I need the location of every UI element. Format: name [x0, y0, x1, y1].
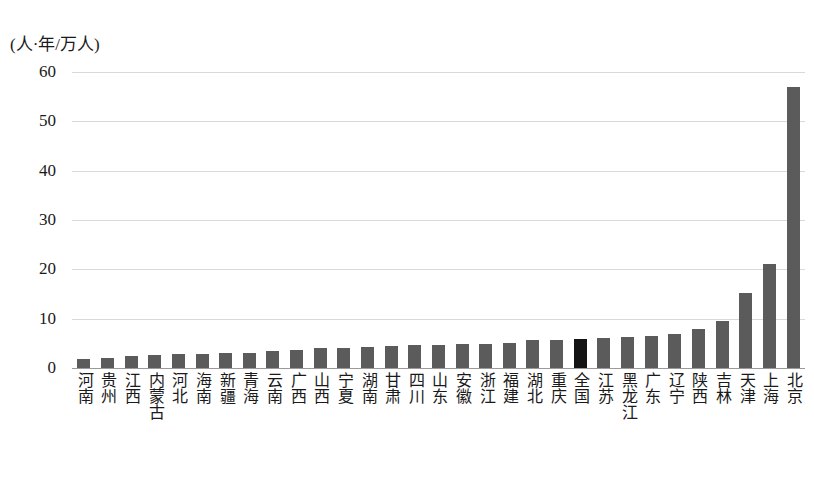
bar[interactable] [432, 345, 445, 368]
bar[interactable] [243, 353, 256, 368]
bar[interactable] [597, 338, 610, 368]
y-axis-tick-labels: 0102030405060 [0, 72, 64, 368]
x-label-slot: 甘肃 [379, 372, 403, 477]
bar-slot [332, 72, 356, 368]
bar-slot [663, 72, 687, 368]
x-tick-label: 黑龙江 [620, 372, 636, 420]
bar[interactable] [290, 350, 303, 368]
bar-slot [308, 72, 332, 368]
x-tick-label: 福建 [501, 372, 517, 404]
bar[interactable] [645, 336, 658, 368]
bar[interactable] [787, 87, 800, 368]
x-tick-label: 新疆 [218, 372, 234, 404]
x-label-slot: 内蒙古 [143, 372, 167, 477]
x-tick-label: 陕西 [690, 372, 706, 404]
x-label-slot: 贵州 [96, 372, 120, 477]
bar-chart: (人·年/万人) 0102030405060 河南贵州江西内蒙古河北海南新疆青海… [0, 0, 814, 483]
x-tick-label: 宁夏 [336, 372, 352, 404]
x-label-slot: 四川 [403, 372, 427, 477]
bar[interactable] [196, 354, 209, 368]
bar[interactable] [148, 355, 161, 368]
x-tick-label: 江西 [123, 372, 139, 404]
y-axis-unit-label: (人·年/万人) [10, 30, 100, 55]
x-tick-label: 山东 [430, 372, 446, 404]
x-tick-label: 江苏 [596, 372, 612, 404]
bar[interactable] [479, 344, 492, 368]
bar[interactable] [314, 348, 327, 368]
bar-slot [261, 72, 285, 368]
bar[interactable] [385, 346, 398, 368]
bar-slot [285, 72, 309, 368]
bar-slot [143, 72, 167, 368]
bar-slot [710, 72, 734, 368]
bar[interactable] [692, 329, 705, 368]
bar[interactable] [526, 340, 539, 368]
y-tick-label: 60 [0, 62, 56, 82]
bar[interactable] [716, 321, 729, 368]
y-tick-label: 30 [0, 210, 56, 230]
bar-slot [545, 72, 569, 368]
y-tick-label: 0 [0, 358, 56, 378]
bar[interactable] [739, 293, 752, 368]
x-label-slot: 广东 [639, 372, 663, 477]
axis-baseline [72, 368, 805, 369]
x-tick-label: 浙江 [478, 372, 494, 404]
x-label-slot: 山东 [427, 372, 451, 477]
bar-slot [474, 72, 498, 368]
x-label-slot: 新疆 [214, 372, 238, 477]
bar-slot [758, 72, 782, 368]
bar[interactable] [668, 334, 681, 368]
x-label-slot: 海南 [190, 372, 214, 477]
bar-slot [498, 72, 522, 368]
bar-slot [592, 72, 616, 368]
bar[interactable] [337, 348, 350, 368]
x-label-slot: 黑龙江 [616, 372, 640, 477]
bar[interactable] [621, 337, 634, 368]
bar-slot [237, 72, 261, 368]
x-label-slot: 山西 [308, 372, 332, 477]
x-tick-label: 河北 [170, 372, 186, 404]
x-tick-label: 重庆 [549, 372, 565, 404]
bar-slot [639, 72, 663, 368]
bar[interactable] [219, 353, 232, 368]
bar-slot [450, 72, 474, 368]
x-label-slot: 江西 [119, 372, 143, 477]
bar[interactable] [266, 351, 279, 368]
y-tick-label: 20 [0, 259, 56, 279]
bar[interactable] [172, 354, 185, 368]
bar-slot [96, 72, 120, 368]
bar[interactable] [125, 356, 138, 368]
bars-container [72, 72, 805, 368]
bar[interactable] [361, 347, 374, 368]
bar[interactable] [77, 359, 90, 368]
x-tick-label: 海南 [194, 372, 210, 404]
bar-slot [214, 72, 238, 368]
bar-slot [356, 72, 380, 368]
x-tick-label: 湖北 [525, 372, 541, 404]
x-label-slot: 江苏 [592, 372, 616, 477]
bar-slot [781, 72, 805, 368]
bar-slot [403, 72, 427, 368]
bar[interactable] [503, 343, 516, 368]
x-tick-label: 河南 [76, 372, 92, 404]
x-label-slot: 湖南 [356, 372, 380, 477]
x-label-slot: 广西 [285, 372, 309, 477]
bar-slot [72, 72, 96, 368]
x-label-slot: 上海 [758, 372, 782, 477]
y-tick-label: 50 [0, 111, 56, 131]
x-label-slot: 辽宁 [663, 372, 687, 477]
x-tick-label: 辽宁 [667, 372, 683, 404]
bar-slot [379, 72, 403, 368]
bar[interactable] [550, 340, 563, 368]
x-label-slot: 福建 [498, 372, 522, 477]
bar[interactable] [763, 264, 776, 368]
bar[interactable] [101, 358, 114, 368]
bar[interactable] [408, 345, 421, 368]
bar[interactable] [456, 344, 469, 368]
bar-slot [687, 72, 711, 368]
x-label-slot: 吉林 [710, 372, 734, 477]
bar-slot [734, 72, 758, 368]
bar[interactable] [574, 339, 587, 368]
x-label-slot: 宁夏 [332, 372, 356, 477]
bar-slot [190, 72, 214, 368]
